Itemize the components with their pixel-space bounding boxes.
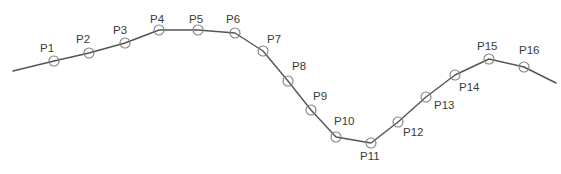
vertex-label-p9: P9 [313, 90, 327, 102]
vertex-label-p3: P3 [113, 24, 127, 36]
vertex-label-p12: P12 [403, 126, 423, 138]
vertex-label-p4: P4 [150, 13, 164, 25]
vertex-label-p16: P16 [519, 44, 539, 56]
vertex-label-p2: P2 [76, 33, 90, 45]
vertex-label-p13: P13 [434, 99, 454, 111]
vertex-label-p11: P11 [360, 150, 380, 162]
vertex-label-p14: P14 [459, 81, 479, 93]
vertex-label-p8: P8 [292, 60, 306, 72]
vertex-label-p10: P10 [334, 115, 354, 127]
vertex-label-p7: P7 [267, 33, 281, 45]
vertex-label-p6: P6 [226, 13, 240, 25]
vertex-label-p15: P15 [477, 40, 497, 52]
vertex-label-p1: P1 [40, 42, 54, 54]
polyline-diagram-canvas: P1P2P3P4P5P6P7P8P9P10P11P12P13P14P15P16 [0, 0, 561, 174]
vertex-label-p5: P5 [189, 13, 203, 25]
